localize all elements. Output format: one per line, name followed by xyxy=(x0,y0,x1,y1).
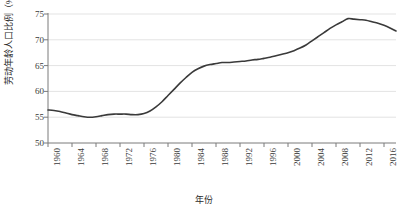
chart-container: 劳动年龄人口比例（%） 505560657075 196019641968197… xyxy=(0,0,407,213)
x-tick-label-1976: 1976 xyxy=(148,148,158,166)
x-tick-label-1972: 1972 xyxy=(124,148,134,166)
x-tick-label-2012: 2012 xyxy=(364,148,374,166)
x-axis-ticks xyxy=(48,143,384,147)
x-tick-label-2016: 2016 xyxy=(388,148,398,166)
x-tick-label-2004: 2004 xyxy=(316,148,326,166)
x-tick-label-1968: 1968 xyxy=(100,148,110,166)
y-axis-ticks xyxy=(44,14,48,143)
x-tick-label-2008: 2008 xyxy=(340,148,350,166)
x-tick-label-1964: 1964 xyxy=(76,148,86,166)
x-axis-tick-labels: 1960196419681972197619801984198819921996… xyxy=(0,148,407,194)
axis-lines xyxy=(48,13,396,143)
x-tick-label-1980: 1980 xyxy=(172,148,182,166)
x-tick-label-1960: 1960 xyxy=(52,148,62,166)
gridlines xyxy=(48,14,396,117)
x-axis-title: 年份 xyxy=(0,193,407,206)
x-tick-label-2000: 2000 xyxy=(292,148,302,166)
data-line-series-0 xyxy=(48,19,396,118)
x-tick-label-1984: 1984 xyxy=(196,148,206,166)
x-tick-label-1996: 1996 xyxy=(268,148,278,166)
x-tick-label-1988: 1988 xyxy=(220,148,230,166)
x-tick-label-1992: 1992 xyxy=(244,148,254,166)
